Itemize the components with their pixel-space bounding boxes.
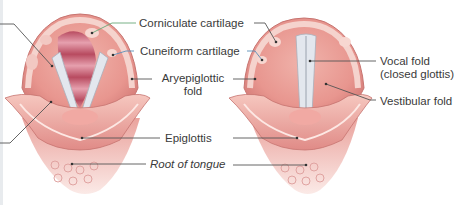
- label-root-of-tongue: Root of tongue: [150, 158, 225, 171]
- label-vocal-fold: Vocal fold (closed glottis): [380, 55, 454, 81]
- label-aryepiglottic-line2: fold: [152, 85, 234, 98]
- label-cuneiform-cartilage: Cuneiform cartilage: [140, 45, 240, 58]
- label-aryepiglottic-line1: Aryepiglottic: [152, 72, 234, 85]
- label-epiglottis: Epiglottis: [165, 132, 212, 145]
- label-aryepiglottic-fold: Aryepiglottic fold: [152, 72, 234, 98]
- label-vocal-fold-line2: (closed glottis): [380, 68, 454, 81]
- label-vocal-fold-line1: Vocal fold: [380, 55, 454, 68]
- label-vestibular-fold: Vestibular fold: [380, 95, 452, 108]
- label-corniculate-cartilage: Corniculate cartilage: [139, 17, 244, 30]
- closed-glottis-panel: [229, 18, 372, 194]
- open-glottis-panel: [5, 14, 150, 194]
- larynx-diagram: Corniculate cartilage Cuneiform cartilag…: [0, 0, 467, 205]
